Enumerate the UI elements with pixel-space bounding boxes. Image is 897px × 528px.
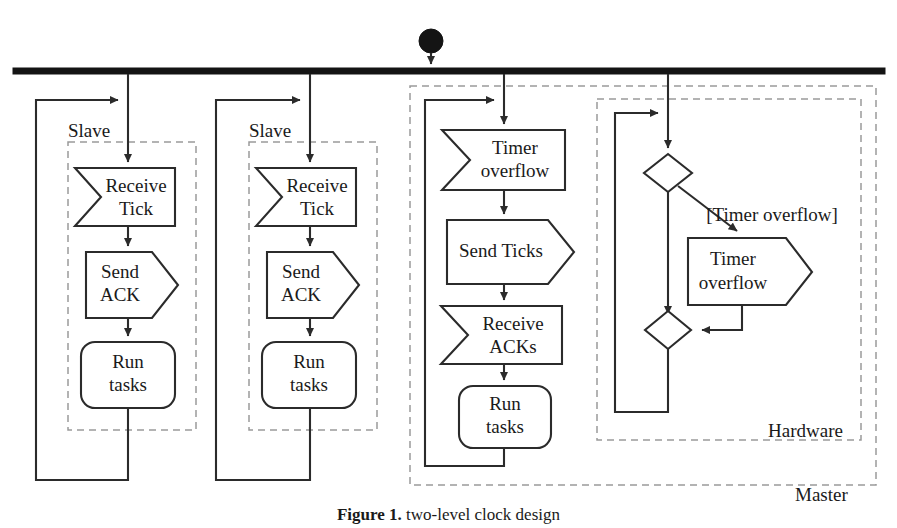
figure-caption-clip: Figure 1. two-level clock design: [0, 505, 897, 528]
figure-caption: Figure 1. two-level clock design: [0, 505, 897, 525]
node-hardware-merge[interactable]: [645, 311, 691, 349]
lane-label-hardware: Hardware: [768, 420, 843, 441]
node-hardware-timer-overflow-line1: Timer: [710, 248, 756, 269]
node-slave2-run-tasks-line2: tasks: [290, 374, 328, 395]
node-slave1-run-tasks-line1: Run: [112, 351, 144, 372]
node-slave2-run-tasks-line1: Run: [293, 351, 325, 372]
node-master-receive-acks-line2: ACKs: [489, 336, 537, 357]
node-master-timer-overflow-line1: Timer: [492, 137, 538, 158]
flow-hardware-send-to-merge: [702, 305, 742, 330]
figure-caption-body: two-level clock design: [402, 505, 560, 524]
node-slave2-send-ack-line2: ACK: [281, 284, 321, 305]
node-slave1-send-ack-line1: Send: [101, 261, 140, 282]
node-hardware-decision[interactable]: [644, 154, 692, 192]
node-master-timer-overflow-line2: overflow: [481, 160, 550, 181]
node-master-receive-acks-line1: Receive: [482, 313, 543, 334]
node-master-run-tasks-line2: tasks: [486, 416, 524, 437]
lane-label-master: Master: [795, 484, 848, 505]
fork-bar: [13, 68, 885, 74]
activity-diagram: Receive Tick Send ACK Run tasks Slave Re…: [0, 0, 897, 528]
node-slave1-run-tasks-line2: tasks: [109, 374, 147, 395]
node-slave2-receive-tick-line2: Tick: [300, 198, 335, 219]
lane-label-slave-2: Slave: [249, 120, 291, 141]
node-slave1-send-ack-line2: ACK: [100, 284, 140, 305]
node-hardware-timer-overflow-line2: overflow: [699, 272, 768, 293]
node-slave2-send-ack-line1: Send: [282, 261, 321, 282]
node-master-run-tasks-line1: Run: [489, 393, 521, 414]
lane-label-slave-1: Slave: [68, 120, 110, 141]
guard-label-timer-overflow: [Timer overflow]: [706, 204, 838, 225]
initial-node: [419, 29, 443, 53]
flow-hardware-loopback: [615, 113, 668, 412]
figure-container: Receive Tick Send ACK Run tasks Slave Re…: [0, 0, 897, 528]
node-slave1-receive-tick-line2: Tick: [119, 198, 154, 219]
node-slave2-receive-tick-line1: Receive: [286, 175, 347, 196]
node-master-send-ticks-line1: Send Ticks: [459, 240, 543, 261]
figure-caption-label: Figure 1.: [337, 505, 402, 524]
node-slave1-receive-tick-line1: Receive: [105, 175, 166, 196]
